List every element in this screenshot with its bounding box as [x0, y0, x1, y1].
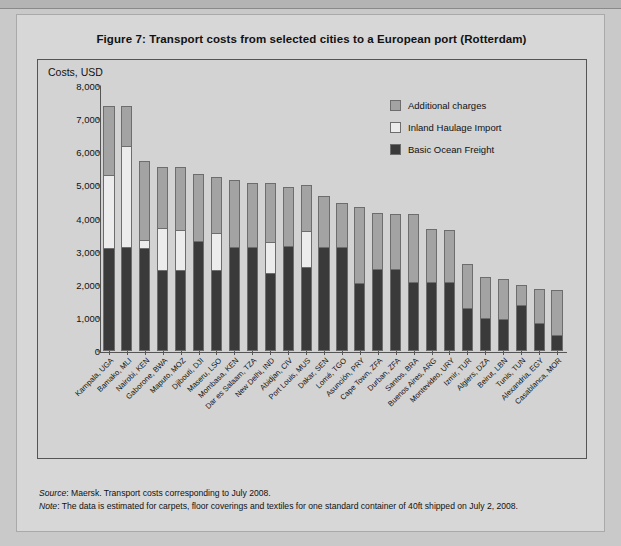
bar-slot[interactable] — [225, 86, 243, 351]
bar-segment-basic-ocean-freight — [409, 283, 418, 350]
y-axis-tick-label: 1,000 — [38, 312, 106, 323]
figure-card: Figure 7: Transport costs from selected … — [16, 14, 605, 532]
stacked-bar[interactable] — [283, 187, 294, 351]
bar-segment-basic-ocean-freight — [176, 271, 185, 350]
bar-segment-additional-charges — [517, 286, 526, 306]
stacked-bar[interactable] — [336, 203, 347, 351]
chart-plot-area: Costs, USD 01,0002,0003,0004,0005,0006,0… — [37, 59, 587, 459]
stacked-bar[interactable] — [157, 167, 168, 351]
legend-item-basic-ocean-freight: Basic Ocean Freight — [390, 144, 580, 155]
stacked-bar[interactable] — [265, 183, 276, 351]
bar-segment-additional-charges — [230, 181, 239, 248]
bar-segment-inland-haulage-import — [122, 147, 131, 248]
bar-segment-basic-ocean-freight — [535, 324, 544, 351]
bar-slot[interactable] — [172, 86, 190, 351]
note-label: Note — [39, 501, 57, 511]
stacked-bar[interactable] — [229, 180, 240, 351]
bar-segment-additional-charges — [355, 208, 364, 284]
stacked-bar[interactable] — [551, 290, 562, 351]
stacked-bar[interactable] — [247, 183, 258, 351]
stacked-bar[interactable] — [139, 161, 150, 351]
y-axis-tick-label: 8,000 — [38, 81, 106, 92]
bar-segment-basic-ocean-freight — [212, 271, 221, 351]
bar-segment-basic-ocean-freight — [427, 283, 436, 350]
bar-slot[interactable] — [118, 86, 136, 351]
stacked-bar[interactable] — [354, 207, 365, 351]
bar-segment-basic-ocean-freight — [463, 309, 472, 350]
legend-label-additional-charges: Additional charges — [408, 100, 486, 111]
bar-segment-basic-ocean-freight — [355, 284, 364, 350]
stacked-bar[interactable] — [103, 106, 114, 351]
stacked-bar[interactable] — [498, 279, 509, 351]
bar-segment-additional-charges — [337, 204, 346, 248]
bar-segment-additional-charges — [104, 107, 113, 177]
bar-segment-basic-ocean-freight — [552, 336, 561, 350]
figure-page: Figure 7: Transport costs from selected … — [0, 0, 621, 546]
bar-segment-additional-charges — [140, 162, 149, 241]
bar-segment-additional-charges — [194, 175, 203, 242]
bar-segment-inland-haulage-import — [158, 229, 167, 270]
stacked-bar[interactable] — [462, 264, 473, 351]
bar-slot[interactable] — [190, 86, 208, 351]
bar-segment-basic-ocean-freight — [104, 249, 113, 350]
page-top-edge — [0, 0, 621, 9]
source-label: Source — [39, 488, 66, 498]
stacked-bar[interactable] — [121, 106, 132, 351]
bar-slot[interactable] — [297, 86, 315, 351]
bar-slot[interactable] — [369, 86, 387, 351]
stacked-bar[interactable] — [408, 214, 419, 351]
stacked-bar[interactable] — [372, 213, 383, 351]
bar-segment-additional-charges — [445, 231, 454, 284]
stacked-bar[interactable] — [211, 177, 222, 351]
bar-slot[interactable] — [243, 86, 261, 351]
stacked-bar[interactable] — [516, 285, 527, 351]
stacked-bar[interactable] — [390, 214, 401, 351]
bar-segment-additional-charges — [284, 188, 293, 247]
bar-segment-inland-haulage-import — [140, 241, 149, 249]
legend-swatch-inland-haulage-import — [390, 122, 401, 133]
stacked-bar[interactable] — [426, 229, 437, 351]
figure-notes: Source: Maersk. Transport costs correspo… — [39, 487, 589, 512]
bar-segment-additional-charges — [481, 278, 490, 319]
bar-segment-inland-haulage-import — [176, 231, 185, 271]
stacked-bar[interactable] — [318, 196, 329, 351]
stacked-bar[interactable] — [480, 277, 491, 351]
bar-segment-additional-charges — [122, 107, 131, 147]
chart-legend: Additional charges Inland Haulage Import… — [390, 100, 580, 166]
bar-segment-additional-charges — [319, 197, 328, 248]
bar-slot[interactable] — [208, 86, 226, 351]
stacked-bar[interactable] — [534, 289, 545, 351]
bar-segment-basic-ocean-freight — [391, 270, 400, 350]
stacked-bar[interactable] — [444, 230, 455, 351]
bar-segment-basic-ocean-freight — [248, 248, 257, 350]
x-axis-labels: Kampala, UGABamako, MLINairobi, KENGabor… — [100, 354, 566, 454]
bar-slot[interactable] — [261, 86, 279, 351]
bar-segment-basic-ocean-freight — [158, 271, 167, 351]
bar-slot[interactable] — [136, 86, 154, 351]
bar-segment-additional-charges — [409, 215, 418, 284]
bar-segment-basic-ocean-freight — [284, 247, 293, 350]
stacked-bar[interactable] — [301, 185, 312, 351]
bar-segment-basic-ocean-freight — [499, 320, 508, 350]
y-axis-tick-label: 2,000 — [38, 279, 106, 290]
bar-slot[interactable] — [315, 86, 333, 351]
bar-segment-additional-charges — [212, 178, 221, 234]
bar-segment-basic-ocean-freight — [373, 270, 382, 350]
bar-slot[interactable] — [279, 86, 297, 351]
legend-label-inland-haulage-import: Inland Haulage Import — [408, 122, 501, 133]
stacked-bar[interactable] — [193, 174, 204, 351]
legend-item-inland-haulage-import: Inland Haulage Import — [390, 122, 580, 133]
bar-slot[interactable] — [154, 86, 172, 351]
bar-segment-basic-ocean-freight — [266, 274, 275, 350]
bar-slot[interactable] — [333, 86, 351, 351]
bar-slot[interactable] — [351, 86, 369, 351]
bar-segment-basic-ocean-freight — [140, 249, 149, 350]
legend-label-basic-ocean-freight: Basic Ocean Freight — [408, 144, 494, 155]
bar-segment-basic-ocean-freight — [517, 306, 526, 350]
bar-segment-inland-haulage-import — [104, 176, 113, 249]
data-note: Note: The data is estimated for carpets,… — [39, 500, 589, 513]
bar-segment-additional-charges — [176, 168, 185, 231]
bar-segment-additional-charges — [248, 184, 257, 248]
stacked-bar[interactable] — [175, 167, 186, 351]
bar-slot[interactable] — [100, 86, 118, 351]
